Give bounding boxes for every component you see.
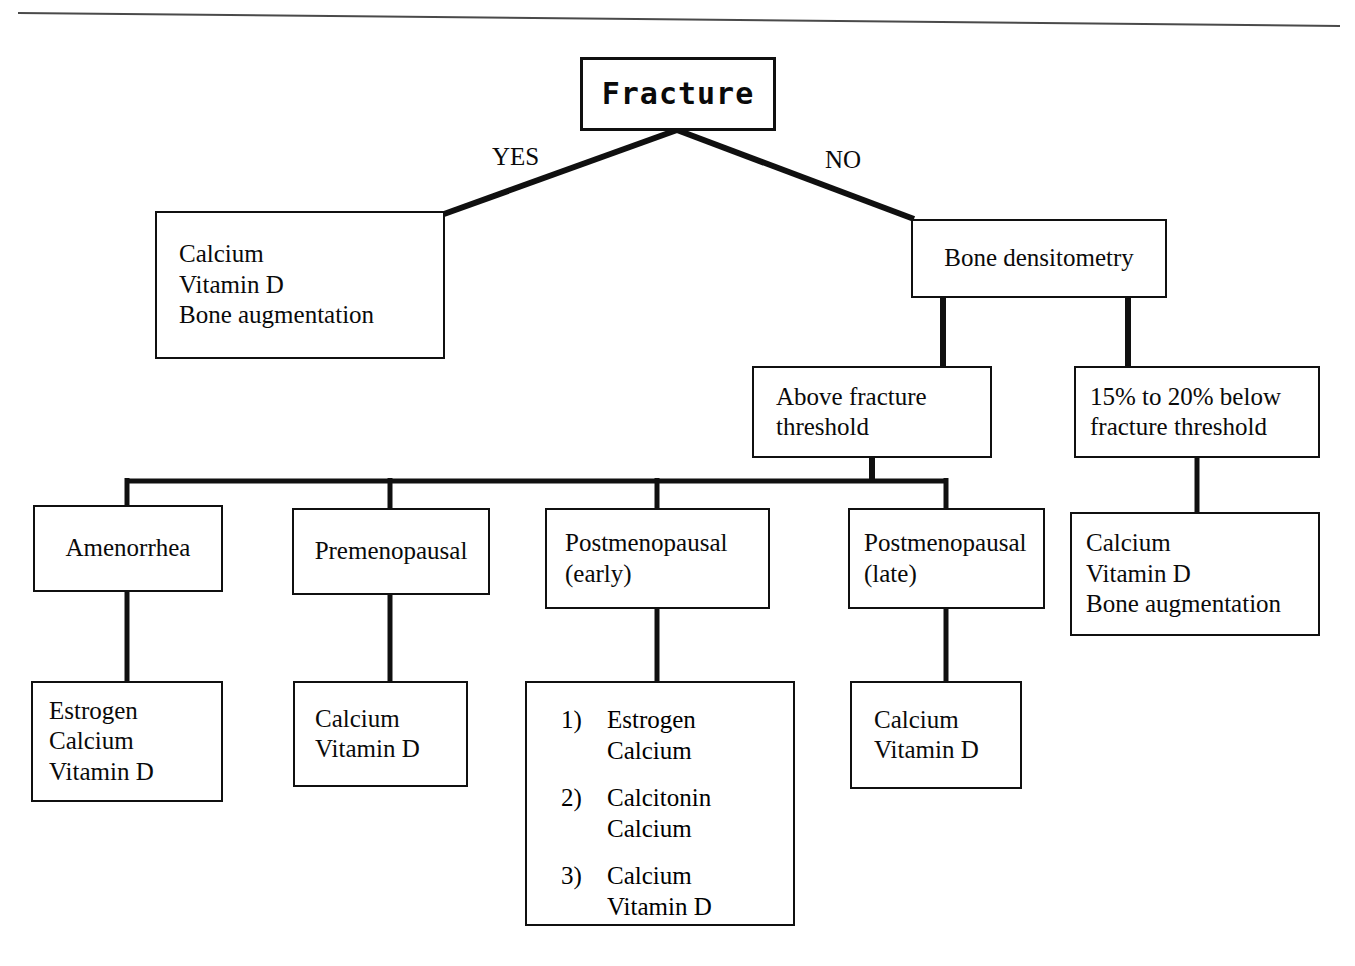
top-rule <box>18 13 1340 26</box>
node-postmenopausal-late-treatment[interactable]: Calcium Vitamin D <box>850 681 1022 789</box>
flowchart-page: Fracture YES NO Calcium Vitamin D Bone a… <box>0 0 1355 966</box>
treatment-option-3-lines: Calcium Vitamin D <box>607 861 712 922</box>
treatment-option-1-line-2: Calcium <box>607 736 696 767</box>
branch-label-yes: YES <box>492 143 539 171</box>
node-postmenopausal-late-line-1: Postmenopausal <box>864 528 1027 559</box>
treatment-option-3-line-1: Calcium <box>607 861 712 892</box>
node-yes-treatment[interactable]: Calcium Vitamin D Bone augmentation <box>155 211 445 359</box>
node-fracture[interactable]: Fracture <box>580 57 776 131</box>
treatment-option-3-marker: 3) <box>561 861 607 922</box>
treatment-option-1-line-1: Estrogen <box>607 705 696 736</box>
node-premenopausal-label: Premenopausal <box>315 536 468 567</box>
treatment-option-2-line-1: Calcitonin <box>607 783 711 814</box>
node-bone-densitometry[interactable]: Bone densitometry <box>911 219 1167 298</box>
node-premenopausal-treatment[interactable]: Calcium Vitamin D <box>293 681 468 787</box>
node-below-threshold-treatment-line-3: Bone augmentation <box>1086 589 1281 620</box>
treatment-option-2-marker: 2) <box>561 783 607 844</box>
node-amenorrhea-treatment[interactable]: Estrogen Calcium Vitamin D <box>31 681 223 802</box>
node-below-threshold-line-2: fracture threshold <box>1090 412 1267 443</box>
node-amenorrhea-label: Amenorrhea <box>66 533 191 564</box>
node-amenorrhea-treatment-line-1: Estrogen <box>49 696 138 727</box>
node-below-threshold-line-1: 15% to 20% below <box>1090 382 1281 413</box>
node-postmenopausal-early[interactable]: Postmenopausal (early) <box>545 508 770 609</box>
treatment-option-1-marker: 1) <box>561 705 607 766</box>
node-premenopausal-treatment-line-1: Calcium <box>315 704 400 735</box>
edge-fracture-to-yes <box>444 130 677 214</box>
treatment-option-1-lines: Estrogen Calcium <box>607 705 696 766</box>
node-premenopausal-treatment-line-2: Vitamin D <box>315 734 420 765</box>
branch-label-no: NO <box>825 146 861 174</box>
node-postmenopausal-early-treatment[interactable]: 1) Estrogen Calcium 2) Calcitonin Calciu… <box>525 681 795 926</box>
node-amenorrhea-treatment-line-3: Vitamin D <box>49 757 154 788</box>
treatment-option-2-line-2: Calcium <box>607 814 711 845</box>
node-above-fracture-threshold[interactable]: Above fracture threshold <box>752 366 992 458</box>
node-below-fracture-threshold[interactable]: 15% to 20% below fracture threshold <box>1074 366 1320 458</box>
node-yes-treatment-line-1: Calcium <box>179 239 264 270</box>
node-above-threshold-line-2: threshold <box>776 412 869 443</box>
treatment-option-2: 2) Calcitonin Calcium <box>561 783 783 844</box>
node-below-threshold-treatment-line-1: Calcium <box>1086 528 1171 559</box>
node-postmenopausal-late-treatment-line-1: Calcium <box>874 705 959 736</box>
edge-fracture-to-no <box>677 130 914 219</box>
node-premenopausal[interactable]: Premenopausal <box>292 508 490 595</box>
treatment-option-1: 1) Estrogen Calcium <box>561 705 783 766</box>
node-postmenopausal-early-line-2: (early) <box>565 559 632 590</box>
node-postmenopausal-late[interactable]: Postmenopausal (late) <box>848 508 1045 609</box>
node-amenorrhea-treatment-line-2: Calcium <box>49 726 134 757</box>
treatment-option-3: 3) Calcium Vitamin D <box>561 861 783 922</box>
node-below-threshold-treatment-line-2: Vitamin D <box>1086 559 1191 590</box>
treatment-option-2-lines: Calcitonin Calcium <box>607 783 711 844</box>
node-amenorrhea[interactable]: Amenorrhea <box>33 505 223 592</box>
node-fracture-label: Fracture <box>602 76 755 113</box>
node-yes-treatment-line-3: Bone augmentation <box>179 300 374 331</box>
node-postmenopausal-early-line-1: Postmenopausal <box>565 528 728 559</box>
treatment-option-3-line-2: Vitamin D <box>607 892 712 923</box>
node-postmenopausal-late-line-2: (late) <box>864 559 917 590</box>
node-below-threshold-treatment[interactable]: Calcium Vitamin D Bone augmentation <box>1070 512 1320 636</box>
node-bone-densitometry-label: Bone densitometry <box>944 243 1134 274</box>
node-above-threshold-line-1: Above fracture <box>776 382 927 413</box>
node-yes-treatment-line-2: Vitamin D <box>179 270 284 301</box>
node-postmenopausal-late-treatment-line-2: Vitamin D <box>874 735 979 766</box>
